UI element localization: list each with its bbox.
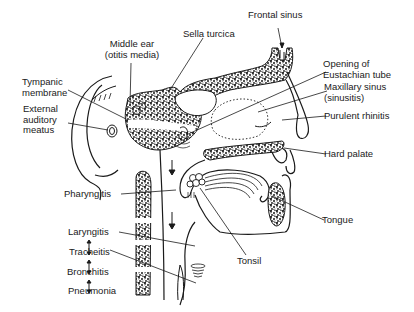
trachea-rings	[191, 264, 205, 277]
label-maxillary-sinus: Maxillary sinus (sinusitis)	[324, 82, 386, 103]
frontal-sinus-shape	[280, 43, 284, 62]
label-eustachian-tube: Opening of Eustachian tube	[323, 59, 391, 80]
label-middle-ear: Middle ear (otitis media)	[100, 39, 164, 60]
tongue-stippled-region	[268, 183, 285, 226]
label-external-line1: External	[23, 104, 58, 115]
label-external-line3: meatus	[23, 125, 58, 136]
label-laryngitis: Laryngitis	[68, 227, 109, 238]
cervical-spine	[135, 171, 152, 295]
tonsil-shape	[187, 174, 205, 188]
hard-palate-mass	[204, 141, 284, 160]
label-external-auditory-meatus: External auditory meatus	[23, 104, 58, 136]
label-bronchitis: Bronchitis	[67, 267, 109, 278]
label-pharyngitis: Pharyngitis	[64, 189, 111, 200]
label-maxillary-line1: Maxillary sinus	[324, 82, 386, 93]
ear-outline	[72, 76, 118, 200]
label-tracheitis: Tracheitis	[69, 247, 110, 258]
airway-front-wall	[180, 222, 195, 305]
label-sella-turcica: Sella turcica	[183, 29, 235, 40]
label-eustachian-line1: Opening of	[323, 59, 391, 70]
label-purulent-rhinitis: Purulent rhinitis	[324, 111, 389, 122]
nasal-outline	[286, 72, 308, 138]
label-tympanic-line2: membrane	[22, 88, 67, 99]
maxillary-sinus-outline	[211, 99, 268, 139]
purulent-flow-arrow	[255, 122, 271, 127]
label-middle-ear-line2: (otitis media)	[100, 50, 164, 61]
label-tympanic-line1: Tympanic	[22, 77, 67, 88]
tongue-muscle-lines	[205, 173, 262, 198]
label-frontal-sinus: Frontal sinus	[248, 10, 302, 21]
label-tonsil: Tonsil	[237, 256, 261, 267]
label-middle-ear-line1: Middle ear	[100, 39, 164, 50]
pharyngeal-wall	[160, 150, 164, 300]
label-eustachian-line2: Eustachian tube	[323, 70, 391, 81]
label-maxillary-line2: (sinusitis)	[324, 93, 386, 104]
airflow-arrow-icon	[169, 160, 175, 229]
label-pneumonia: Pneumonia	[68, 286, 116, 297]
label-hard-palate: Hard palate	[324, 149, 373, 160]
external-auditory-meatus-shape	[107, 125, 117, 137]
label-tympanic-membrane: Tympanic membrane	[22, 77, 67, 98]
pharynx-marks	[188, 192, 194, 198]
label-tongue: Tongue	[322, 215, 353, 226]
